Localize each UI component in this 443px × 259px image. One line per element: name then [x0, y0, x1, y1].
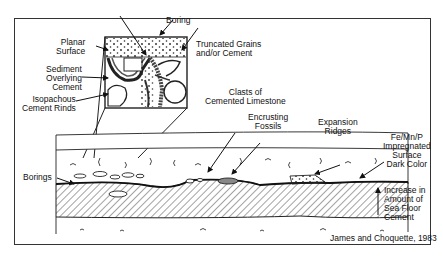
label-planar-surface: Planar Surface [56, 38, 85, 56]
inset-microscopic-view [105, 37, 187, 108]
label-sediment-overlying-cement: Sediment Overlying Cement [46, 65, 82, 92]
label-increase-cement: Increase in Amount of Sea Floor Cement [384, 186, 426, 222]
label-isopachous: Isopachous Cement Rinds [22, 95, 76, 113]
label-expansion-ridges: Expansion Ridges [318, 118, 358, 136]
label-encrusting-fossils: Encrusting Fossils [248, 113, 288, 131]
label-borings: Borings [23, 173, 52, 182]
citation: James and Choquette, 1983 [330, 234, 437, 243]
label-clasts: Clasts of Cemented Limestone [205, 88, 286, 106]
label-truncated: Truncated Grains and/or Cement [196, 40, 261, 58]
label-fe-mn-p: Fe/Mn/P Impregnated Surface Dark Color [383, 133, 431, 169]
label-boring: Boring [166, 16, 191, 25]
